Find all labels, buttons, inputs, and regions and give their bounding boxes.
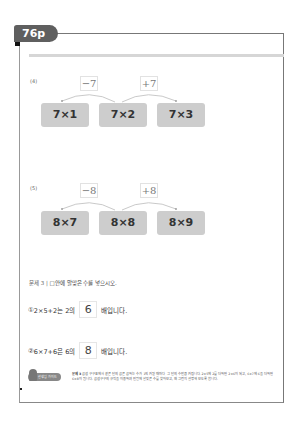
margin-dot <box>20 388 22 390</box>
arc-arrow-icon <box>122 203 176 210</box>
item-1-expression: 2×5+2는 2의 <box>34 305 76 315</box>
teacher-avatar-icon <box>29 369 37 381</box>
item-2-suffix: 배입니다. <box>101 346 127 356</box>
arrow-arcs <box>0 0 297 430</box>
exercise-item-1: ① 2×5+2는 2의 6 배입니다. <box>28 301 127 318</box>
tip-badge-label: 선생님 가이드 <box>38 375 57 379</box>
item-2-answer-box[interactable]: 8 <box>79 342 97 359</box>
arc-arrow-icon <box>122 95 176 102</box>
exercise-instruction: 문제 3 | □안에 알맞은 수를 넣으시오. <box>29 279 117 287</box>
item-2-expression: 6×7+6은 6의 <box>34 346 76 356</box>
exercise-item-2: ② 6×7+6은 6의 8 배입니다. <box>28 342 127 359</box>
tip-text: 문제 3 곱셈 구구표에서 같은 단의 곱은 곱하는 수가 1씩 커질 때마다 … <box>72 372 278 382</box>
item-1-answer-box[interactable]: 6 <box>79 301 97 318</box>
exercise-number: 문제 3 | <box>29 280 48 286</box>
item-1-suffix: 배입니다. <box>101 305 127 315</box>
arc-arrow-icon <box>62 95 115 102</box>
tip-body: 곱셈 구구표에서 같은 단의 곱은 곱하는 수가 1씩 커질 때마다 그 단의 … <box>72 372 273 381</box>
tip-heading: 문제 3 <box>72 372 81 376</box>
teacher-tip: 선생님 가이드 문제 3 곱셈 구구표에서 같은 단의 곱은 곱하는 수가 1씩… <box>28 371 278 395</box>
exercise-instruction-text: □안에 알맞은 수를 넣으시오. <box>50 280 117 286</box>
arc-arrow-icon <box>62 203 115 210</box>
